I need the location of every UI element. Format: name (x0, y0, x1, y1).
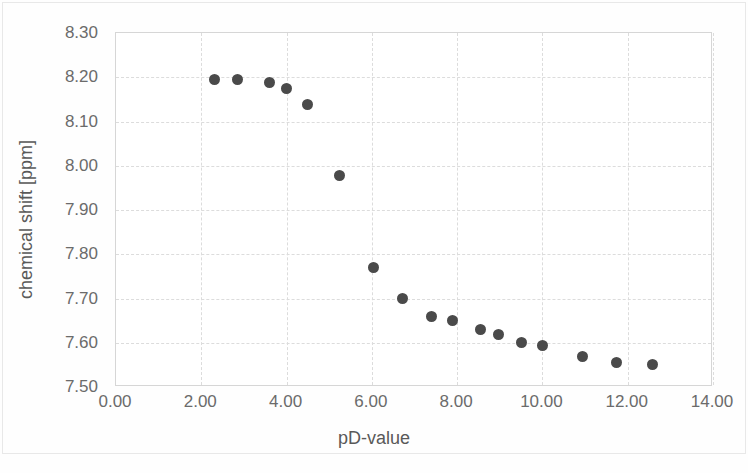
data-point (577, 351, 588, 362)
y-axis-tick-label: 8.30 (65, 24, 98, 41)
data-point (232, 74, 243, 85)
data-point (281, 83, 292, 94)
y-axis-tick-label: 7.80 (65, 245, 98, 262)
data-point (302, 99, 313, 110)
x-axis-tick-labels: 0.002.004.006.008.0010.0012.0014.00 (0, 392, 748, 416)
data-point (611, 357, 622, 368)
gridline-horizontal (116, 77, 711, 78)
x-axis-tick-label: 0.00 (98, 392, 131, 412)
x-axis-tick-label: 14.00 (691, 392, 734, 412)
x-axis-tick-label: 12.00 (605, 392, 648, 412)
y-axis-title: chemical shift [ppm] (16, 90, 37, 350)
y-axis-tick-label: 7.70 (65, 289, 98, 306)
y-axis-tick-label: 8.00 (65, 156, 98, 173)
data-point (537, 340, 548, 351)
gridline-vertical (542, 33, 543, 385)
gridline-vertical (713, 33, 714, 385)
data-point (493, 329, 504, 340)
x-axis-tick-label: 4.00 (269, 392, 302, 412)
data-point (264, 77, 275, 88)
gridline-horizontal (116, 254, 711, 255)
gridline-vertical (201, 33, 202, 385)
data-point (397, 293, 408, 304)
data-point (647, 359, 658, 370)
y-axis-tick-label: 8.10 (65, 112, 98, 129)
y-axis-tick-label: 8.20 (65, 68, 98, 85)
data-point (516, 337, 527, 348)
gridline-vertical (372, 33, 373, 385)
x-axis-tick-label: 2.00 (184, 392, 217, 412)
y-axis-tick-label: 7.90 (65, 201, 98, 218)
data-point (426, 311, 437, 322)
gridline-horizontal (116, 299, 711, 300)
x-axis-tick-label: 8.00 (440, 392, 473, 412)
gridline-horizontal (116, 166, 711, 167)
scatter-chart: 7.507.607.707.807.908.008.108.208.30 0.0… (0, 0, 748, 473)
data-point (368, 262, 379, 273)
gridline-vertical (457, 33, 458, 385)
gridline-vertical (628, 33, 629, 385)
plot-area (115, 32, 712, 386)
data-point (334, 170, 345, 181)
data-point (475, 324, 486, 335)
x-axis-tick-label: 10.00 (520, 392, 563, 412)
gridline-horizontal (116, 343, 711, 344)
data-point (209, 74, 220, 85)
x-axis-tick-label: 6.00 (354, 392, 387, 412)
y-axis-tick-label: 7.60 (65, 333, 98, 350)
x-axis-title: pD-value (0, 428, 748, 449)
gridline-horizontal (116, 210, 711, 211)
gridline-horizontal (116, 122, 711, 123)
